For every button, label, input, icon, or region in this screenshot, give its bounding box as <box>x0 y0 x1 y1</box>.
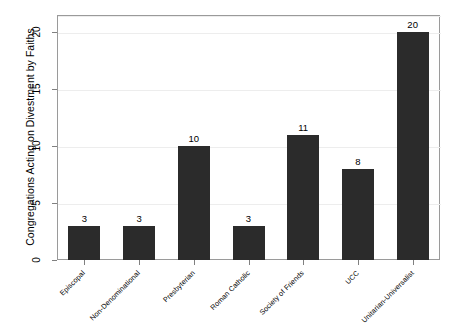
bar-value-label: 3 <box>119 213 159 224</box>
gridline <box>58 16 441 17</box>
bar-value-label: 10 <box>174 133 214 144</box>
bar <box>287 135 319 260</box>
bar-value-label: 3 <box>229 213 269 224</box>
y-axis-tick-label: 5 <box>31 188 43 218</box>
x-axis-tick-mark <box>84 260 85 265</box>
y-axis-tick-label: 10 <box>31 131 43 161</box>
y-axis-tick-mark <box>52 146 57 147</box>
bar-value-label: 20 <box>393 19 433 30</box>
bar-value-label: 11 <box>283 122 323 133</box>
y-axis-tick-label: 0 <box>31 245 43 275</box>
bar <box>233 226 265 260</box>
x-axis-tick-mark <box>358 260 359 265</box>
bar <box>342 169 374 260</box>
bar-value-label: 3 <box>64 213 104 224</box>
bar <box>68 226 100 260</box>
gridline <box>58 33 441 34</box>
x-axis-tick-mark <box>303 260 304 265</box>
bar <box>178 146 210 260</box>
x-axis-tick-mark <box>249 260 250 265</box>
y-axis-tick-label: 20 <box>31 17 43 47</box>
bar <box>397 32 429 260</box>
y-axis-tick-mark <box>52 89 57 90</box>
y-axis-tick-mark <box>52 260 57 261</box>
bar-value-label: 8 <box>338 156 378 167</box>
bar <box>123 226 155 260</box>
x-axis-category-label: Episcopal <box>0 268 88 323</box>
gridline <box>58 147 441 148</box>
x-axis-tick-mark <box>139 260 140 265</box>
gridline <box>58 90 441 91</box>
gridline <box>58 204 441 205</box>
y-axis-tick-mark <box>52 203 57 204</box>
x-axis-tick-mark <box>413 260 414 265</box>
y-axis-tick-mark <box>52 32 57 33</box>
x-axis-tick-mark <box>194 260 195 265</box>
bar-chart: Congregations Acting on Divestment by Fa… <box>0 0 451 323</box>
y-axis-tick-label: 15 <box>31 74 43 104</box>
